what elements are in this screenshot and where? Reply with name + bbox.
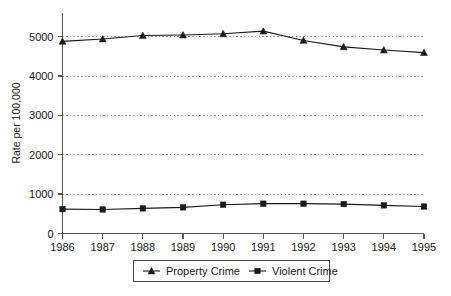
data-point-marker <box>220 202 225 207</box>
y-axis-tick-label: 4000 <box>29 70 53 82</box>
x-axis-tick-label: 1988 <box>131 241 155 253</box>
x-axis-tick-label: 1986 <box>50 241 74 253</box>
y-axis-title: Rate per 100,000 <box>10 82 22 163</box>
y-axis-tick-label: 3000 <box>29 109 53 121</box>
y-axis-tick-label: 0 <box>47 228 53 240</box>
data-point-marker <box>60 206 65 211</box>
legend-label: Property Crime <box>166 265 240 277</box>
x-axis-tick-label: 1989 <box>171 241 195 253</box>
y-axis-tick-label: 2000 <box>29 149 53 161</box>
data-point-marker <box>381 203 386 208</box>
x-axis-tick-label: 1995 <box>412 241 436 253</box>
line-chart: 010002000300040005000 198619871988198919… <box>0 0 451 296</box>
data-point-marker <box>180 205 185 210</box>
y-axis-tick-label: 5000 <box>29 31 53 43</box>
x-axis-tick-label: 1992 <box>291 241 315 253</box>
x-axis-tick-label: 1987 <box>90 241 114 253</box>
x-axis-tick-label: 1994 <box>372 241 396 253</box>
x-axis-tick-label: 1993 <box>331 241 355 253</box>
data-point-marker <box>140 206 145 211</box>
y-axis-tick-label: 1000 <box>29 188 53 200</box>
data-point-marker <box>100 207 105 212</box>
chart-legend: Property CrimeViolent Crime <box>134 261 338 282</box>
x-axis-tick-label: 1990 <box>211 241 235 253</box>
data-point-marker <box>421 204 426 209</box>
legend-marker <box>255 268 260 273</box>
x-axis-tick-label: 1991 <box>251 241 275 253</box>
chart-canvas: 010002000300040005000 198619871988198919… <box>0 0 451 296</box>
data-point-marker <box>261 201 266 206</box>
data-point-marker <box>301 201 306 206</box>
data-point-marker <box>341 201 346 206</box>
legend-label: Violent Crime <box>272 265 338 277</box>
